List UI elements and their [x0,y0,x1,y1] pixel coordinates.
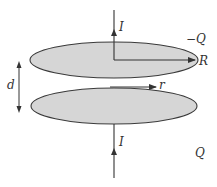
separation-label: d [7,79,15,91]
radius-label: R [199,55,208,67]
diagram-graphics [0,0,217,187]
bottom-wire [111,124,117,178]
bottom-current-arrowhead-icon [111,148,117,155]
capacitor-diagram: I −Q R d r I Q [0,0,217,187]
r-label: r [159,79,165,91]
top-current-arrowhead-icon [111,29,117,36]
charge-label-bottom: Q [195,147,205,159]
current-label-top: I [119,21,124,33]
separation-arrow [17,61,22,113]
charge-label-top: −Q [186,33,206,45]
bottom-plate [31,88,197,124]
current-label-bottom: I [119,136,124,148]
